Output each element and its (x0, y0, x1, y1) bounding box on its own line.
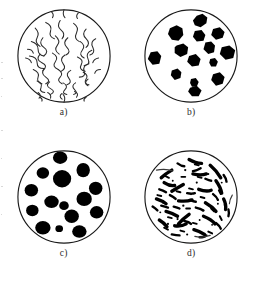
micrograph-disc-c (16, 149, 112, 245)
panel-b: b) (128, 0, 256, 141)
panel-a: a) (0, 0, 128, 141)
panel-label-d: d) (187, 249, 195, 259)
micrograph-disc-b (143, 8, 239, 104)
panel-d: d) (128, 141, 256, 281)
figure-panel-grid: a) (0, 0, 255, 281)
panel-label-c: c) (60, 249, 68, 259)
panel-label-a: a) (60, 108, 68, 118)
panel-c: c) (0, 141, 128, 281)
micrograph-disc-a (16, 8, 112, 104)
micrograph-disc-d (143, 149, 239, 245)
panel-label-b: b) (187, 108, 195, 118)
